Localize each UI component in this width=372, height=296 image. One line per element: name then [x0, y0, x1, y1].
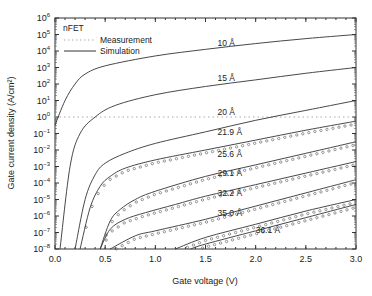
measurement-point [310, 218, 312, 220]
measurement-point [141, 215, 143, 217]
measurement-point [346, 146, 348, 148]
measurement-point [344, 125, 346, 127]
measurement-point [340, 210, 342, 212]
measurement-point [292, 223, 294, 225]
measurement-point [352, 144, 354, 146]
measurement-point [310, 174, 312, 176]
measurement-point [216, 236, 218, 238]
y-tick-label: 106 [37, 12, 51, 23]
y-tick-label: 104 [37, 45, 51, 56]
measurement-point [157, 161, 159, 163]
measurement-point [187, 155, 189, 157]
measurement-point [280, 161, 282, 163]
measurement-point [171, 188, 173, 190]
measurement-point [343, 204, 345, 206]
measurement-point [133, 238, 135, 240]
curve-label: 15 Å [218, 73, 236, 83]
measurement-point [304, 155, 306, 157]
measurement-point [322, 151, 324, 153]
measurement-point [181, 226, 183, 228]
measurement-point [123, 222, 125, 224]
y-tick-label: 103 [37, 62, 51, 73]
measurement-point [283, 219, 285, 221]
measurement-point [103, 184, 105, 186]
curve-label: 35.0 Å [218, 208, 243, 218]
plot-curves [55, 35, 356, 251]
measurement-point [332, 127, 334, 129]
y-tick-label: 10−1 [33, 128, 51, 139]
measurement-point [204, 239, 206, 241]
measurement-point [145, 164, 147, 166]
measurement-point [316, 153, 318, 155]
curve-label: 21.9 Å [218, 127, 243, 137]
measurement-point [253, 208, 255, 210]
measurement-point [268, 183, 270, 185]
measurement-point [129, 219, 131, 221]
measurement-point [157, 232, 159, 234]
y-tick-label: 105 [37, 29, 51, 40]
measurement-point [195, 181, 197, 183]
measurement-point [247, 210, 249, 212]
measurement-point [255, 166, 257, 168]
y-tick-label: 102 [37, 78, 51, 89]
measurement-point [192, 244, 194, 246]
measurement-point [141, 198, 143, 200]
y-tick-label: 101 [37, 95, 51, 106]
measurement-point [222, 234, 224, 236]
measurement-point [181, 156, 183, 158]
measurement-point [183, 184, 185, 186]
simulation-curve [60, 68, 356, 250]
measurement-point [326, 189, 328, 191]
measurement-point [189, 183, 191, 185]
measurement-point [268, 164, 270, 166]
measurement-point [213, 176, 215, 178]
measurement-point [169, 159, 171, 161]
measurement-point [334, 168, 336, 170]
measurement-point [298, 157, 300, 159]
measurement-point [151, 162, 153, 164]
measurement-point [261, 185, 263, 187]
measurement-point [207, 177, 209, 179]
measurement-point [213, 196, 215, 198]
measurement-point [97, 192, 99, 194]
measurement-point [213, 243, 215, 245]
measurement-point [207, 245, 209, 247]
measurement-point [296, 197, 298, 199]
measurement-point [274, 182, 276, 184]
measurement-point [241, 144, 243, 146]
measurement-point [290, 135, 292, 137]
measurement-point [225, 240, 227, 242]
measurement-point [193, 154, 195, 156]
measurement-point [340, 147, 342, 149]
measurement-point [292, 178, 294, 180]
measurement-point [316, 172, 318, 174]
measurement-point [199, 153, 201, 155]
y-tick-label: 100 [37, 111, 51, 122]
measurement-point [231, 239, 233, 241]
measurement-point [139, 236, 141, 238]
measurement-point [159, 210, 161, 212]
measurement-point [331, 207, 333, 209]
measurement-point [296, 134, 298, 136]
measurement-point [115, 175, 117, 177]
measurement-point [346, 209, 348, 211]
measurement-point [322, 171, 324, 173]
measurement-point [243, 169, 245, 171]
y-tick-label: 10−8 [33, 243, 51, 254]
measurement-point [183, 204, 185, 206]
measurement-point [304, 175, 306, 177]
measurement-point [205, 221, 207, 223]
measurement-point [334, 212, 336, 214]
measurement-point [187, 225, 189, 227]
measurement-point [243, 236, 245, 238]
measurement-point [163, 160, 165, 162]
measurement-point [195, 200, 197, 202]
measurement-point [284, 200, 286, 202]
measurement-point [253, 142, 255, 144]
curve-label: 10 Å [218, 38, 236, 48]
measurement-point [308, 194, 310, 196]
curve-label: 25.6 Å [218, 149, 243, 159]
legend-simulation-label: Simulation [100, 46, 140, 56]
measurement-point [334, 148, 336, 150]
measurement-point [325, 208, 327, 210]
